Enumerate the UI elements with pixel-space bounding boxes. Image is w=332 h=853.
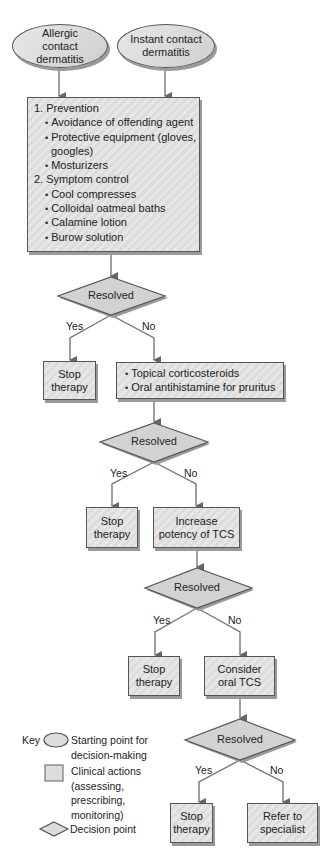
legend-line: (assessing,	[71, 779, 141, 794]
box-line: oral TCS	[217, 676, 261, 689]
box-line: Stop	[94, 515, 131, 528]
list-item: Topical corticosteroids	[125, 367, 275, 381]
legend-rect-text: Clinical actions (assessing, prescribing…	[71, 764, 141, 822]
decision-label: Resolved	[56, 289, 166, 301]
box-line: Stop	[51, 368, 88, 381]
box-line: therapy	[136, 676, 173, 689]
stop-therapy-box: Stoptherapy	[86, 507, 138, 548]
yes-label: Yes	[66, 320, 83, 332]
yes-label: Yes	[110, 467, 127, 479]
start-oval-allergic: Allergic contact dermatitis	[12, 24, 108, 68]
yes-label: Yes	[195, 764, 212, 776]
legend-line: prescribing,	[71, 793, 141, 808]
section-heading: 1. Prevention	[34, 102, 193, 116]
consider-oral-tcs-box: Consideroral TCS	[204, 656, 275, 696]
list-item: Burow solution	[45, 231, 193, 245]
decision-label: Resolved	[99, 435, 209, 447]
no-label: No	[142, 320, 155, 332]
legend-key-label: Key	[22, 733, 40, 748]
stop-therapy-box: Stoptherapy	[128, 656, 180, 696]
no-label: No	[184, 467, 197, 479]
legend-line: Starting point for	[71, 733, 148, 748]
list-item-continuation: googles)	[45, 145, 193, 159]
legend-line: monitoring)	[71, 808, 141, 823]
box-line: Stop	[136, 663, 173, 676]
list-item: Oral antihistamine for pruritus	[125, 381, 275, 395]
legend-diamond-icon	[40, 822, 68, 836]
box-line: Increase	[159, 515, 235, 528]
legend-line: Clinical actions	[71, 764, 141, 779]
increase-potency-box: Increasepotency of TCS	[153, 507, 240, 548]
decision-label: Resolved	[185, 733, 295, 745]
start-oval-instant: Instant contact dermatitis	[117, 24, 215, 68]
box-line: therapy	[173, 823, 210, 836]
section-heading: 2. Symptom control	[34, 173, 193, 187]
box-line: specialist	[260, 823, 305, 836]
box-line: Refer to	[260, 810, 305, 823]
stop-therapy-box: Stoptherapy	[43, 361, 96, 400]
initial-actions-box: 1. Prevention Avoidance of offending age…	[27, 97, 200, 252]
yes-label: Yes	[153, 614, 170, 626]
decision-label: Resolved	[142, 581, 252, 593]
legend-rect-icon	[45, 765, 63, 781]
box-line: therapy	[94, 528, 131, 541]
box-line: potency of TCS	[159, 528, 235, 541]
start-oval-label: Allergic contact dermatitis	[24, 27, 96, 66]
list-item: Cool compresses	[45, 188, 193, 202]
topical-treatment-box: Topical corticosteroids Oral antihistami…	[116, 362, 284, 399]
legend-oval-text: Starting point for decision-making	[71, 733, 148, 762]
box-line: Stop	[173, 810, 210, 823]
legend-diamond-text: Decision point	[70, 822, 136, 837]
list-item: Calamine lotion	[45, 216, 193, 230]
start-oval-label: Instant contact dermatitis	[129, 33, 203, 59]
list-item: Protective equipment (gloves,	[45, 131, 193, 145]
list-item: Avoidance of offending agent	[45, 116, 193, 130]
legend-line: decision-making	[71, 748, 148, 763]
box-line: therapy	[51, 381, 88, 394]
refer-specialist-box: Refer tospecialist	[247, 803, 318, 843]
list-item: Mosturizers	[45, 159, 193, 173]
legend-oval-icon	[44, 733, 68, 747]
no-label: No	[228, 614, 241, 626]
no-label: No	[270, 764, 283, 776]
box-line: Consider	[217, 663, 261, 676]
stop-therapy-box: Stoptherapy	[170, 803, 213, 843]
legend-line: Decision point	[70, 822, 136, 837]
list-item: Colloidal oatmeal baths	[45, 202, 193, 216]
